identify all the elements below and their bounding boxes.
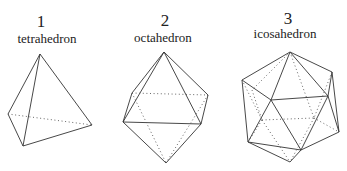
- octahedron-shape: [123, 52, 208, 163]
- tetrahedron-shape: [8, 54, 92, 146]
- polyhedra-drawing: [0, 0, 347, 171]
- icosahedron-shape: [242, 52, 339, 162]
